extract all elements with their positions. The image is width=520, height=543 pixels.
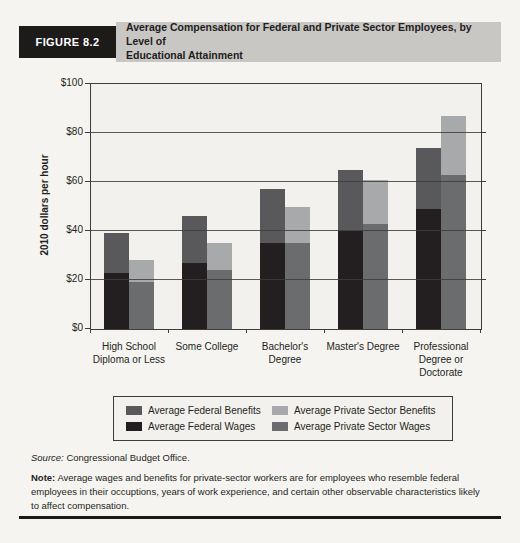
x-tick-mark (402, 329, 403, 333)
figure-page: FIGURE 8.2 Average Compensation for Fede… (0, 0, 520, 543)
private-benefits-segment (441, 116, 466, 175)
y-tick-label: $0 (0, 322, 83, 334)
note-label: Note: (31, 472, 55, 483)
federal-wages-segment (338, 231, 363, 329)
legend-label: Average Private Sector Wages (294, 421, 430, 432)
federal-benefits-segment (260, 189, 285, 243)
federal-bar (338, 170, 363, 329)
x-tick-mark (480, 329, 481, 333)
bar-group (247, 84, 325, 329)
y-tick-label: $60 (0, 175, 83, 187)
private-bar (285, 207, 310, 330)
federal-bar (182, 216, 207, 329)
x-tick-mark (90, 329, 91, 333)
federal-wages-segment (182, 263, 207, 329)
plot-area (90, 83, 482, 330)
private-wages-segment (363, 224, 388, 329)
bar-group (91, 84, 169, 329)
bottom-rule-divider (19, 516, 501, 519)
category-label: Professional Degree or Doctorate (402, 340, 480, 380)
category-label: Bachelor's Degree (246, 340, 324, 366)
federal-bar (104, 233, 129, 329)
legend-box: Average Federal Benefits Average Private… (113, 396, 453, 441)
gridline (91, 230, 481, 231)
source-label: Source: (31, 452, 64, 463)
x-tick-mark (168, 329, 169, 333)
y-tick-mark (85, 132, 90, 133)
federal-wages-segment (416, 209, 441, 329)
y-tick-mark (85, 230, 90, 231)
y-tick-mark (85, 83, 90, 84)
private-bar (441, 116, 466, 329)
private-bar (207, 243, 232, 329)
federal-bar (260, 189, 285, 329)
legend-item-federal-wages: Average Federal Wages (126, 421, 272, 432)
legend-label: Average Private Sector Benefits (294, 405, 436, 416)
gridline (91, 132, 481, 133)
federal-wages-segment (104, 273, 129, 329)
legend-item-private-wages: Average Private Sector Wages (272, 421, 446, 432)
category-label: Master's Degree (324, 340, 402, 353)
federal-benefits-segment (104, 233, 129, 272)
private-benefits-swatch-icon (272, 406, 288, 415)
legend-item-federal-benefits: Average Federal Benefits (126, 405, 272, 416)
private-benefits-segment (363, 180, 388, 224)
federal-benefits-segment (182, 216, 207, 263)
federal-benefits-segment (338, 170, 363, 231)
y-tick-label: $80 (0, 126, 83, 138)
bar-group (169, 84, 247, 329)
private-bar (363, 180, 388, 329)
category-label: High School Diploma or Less (90, 340, 168, 366)
legend-label: Average Federal Benefits (148, 405, 261, 416)
private-wages-segment (129, 282, 154, 329)
y-tick-mark-right (481, 132, 486, 133)
federal-benefits-segment (416, 148, 441, 209)
private-benefits-segment (285, 207, 310, 244)
gridline (91, 181, 481, 182)
y-tick-mark (85, 279, 90, 280)
y-tick-label: $40 (0, 224, 83, 236)
private-wages-swatch-icon (272, 422, 288, 431)
bar-group (403, 84, 481, 329)
source-text: Congressional Budget Office. (64, 452, 190, 463)
category-label: Some College (168, 340, 246, 353)
gridline (91, 279, 481, 280)
federal-bar (416, 148, 441, 329)
y-tick-label: $20 (0, 273, 83, 285)
note-paragraph: Note: Average wages and benefits for pri… (31, 471, 483, 512)
private-benefits-segment (207, 243, 232, 270)
note-text: Average wages and benefits for private-s… (31, 472, 480, 511)
y-tick-mark-right (481, 279, 486, 280)
private-wages-segment (285, 243, 310, 329)
federal-benefits-swatch-icon (126, 406, 142, 415)
y-axis-label: 2010 dollars per hour (39, 154, 50, 255)
y-tick-mark-right (481, 230, 486, 231)
x-tick-mark (324, 329, 325, 333)
federal-wages-swatch-icon (126, 422, 142, 431)
bar-group (325, 84, 403, 329)
x-tick-mark (246, 329, 247, 333)
legend-label: Average Federal Wages (148, 421, 255, 432)
private-wages-segment (441, 175, 466, 329)
y-tick-mark-right (481, 181, 486, 182)
legend-item-private-benefits: Average Private Sector Benefits (272, 405, 446, 416)
y-tick-mark (85, 181, 90, 182)
source-line: Source: Congressional Budget Office. (31, 452, 190, 463)
y-tick-label: $100 (0, 77, 83, 89)
federal-wages-segment (260, 243, 285, 329)
private-bar (129, 260, 154, 329)
